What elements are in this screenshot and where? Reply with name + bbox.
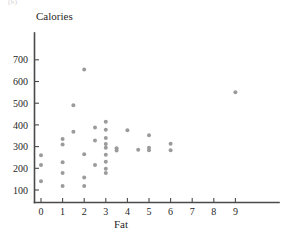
- x-tick-label: 8: [211, 206, 216, 217]
- axis-group: [35, 33, 280, 203]
- data-point: [61, 160, 65, 164]
- data-point: [71, 130, 75, 134]
- data-point: [82, 152, 86, 156]
- y-tick-label: 300: [13, 141, 28, 152]
- x-tick-label: 7: [190, 206, 195, 217]
- y-tick-label: 600: [13, 76, 28, 87]
- data-point: [71, 103, 75, 107]
- tick-group: [35, 60, 236, 203]
- data-point: [104, 120, 108, 124]
- data-point: [104, 167, 108, 171]
- data-point: [115, 149, 119, 153]
- data-point: [233, 90, 237, 94]
- data-point: [104, 128, 108, 132]
- y-tick-label: 700: [13, 54, 28, 65]
- data-point: [61, 142, 65, 146]
- x-tick-label: 6: [168, 206, 173, 217]
- x-tick-label: 5: [147, 206, 152, 217]
- scatter-plot-figure: (b) Calories 100200300400500600700 01234…: [0, 0, 290, 236]
- data-point: [93, 139, 97, 143]
- data-point: [93, 163, 97, 167]
- data-points-group: [39, 68, 237, 189]
- plot-canvas: 100200300400500600700 0123456789: [0, 0, 290, 236]
- x-tick-labels: 0123456789: [39, 206, 238, 217]
- y-tick-label: 200: [13, 163, 28, 174]
- data-point: [169, 142, 173, 146]
- y-tick-label: 100: [13, 185, 28, 196]
- data-point: [147, 148, 151, 152]
- data-point: [104, 136, 108, 140]
- data-point: [104, 142, 108, 146]
- x-tick-label: 3: [103, 206, 108, 217]
- data-point: [82, 68, 86, 72]
- x-tick-label: 4: [125, 206, 130, 217]
- x-tick-label: 1: [60, 206, 65, 217]
- data-point: [93, 126, 97, 130]
- data-point: [61, 171, 65, 175]
- y-tick-label: 500: [13, 98, 28, 109]
- data-point: [169, 148, 173, 152]
- x-axis-title: Fat: [114, 218, 128, 230]
- data-point: [147, 133, 151, 137]
- data-point: [39, 179, 43, 183]
- x-tick-label: 9: [233, 206, 238, 217]
- data-point: [136, 148, 140, 152]
- data-point: [82, 175, 86, 179]
- data-point: [39, 163, 43, 167]
- data-point: [61, 184, 65, 188]
- data-point: [104, 160, 108, 164]
- data-point: [104, 146, 108, 150]
- x-axis-title-wrap: Fat: [0, 218, 290, 230]
- data-point: [82, 184, 86, 188]
- x-tick-label: 2: [82, 206, 87, 217]
- data-point: [104, 171, 108, 175]
- y-tick-labels: 100200300400500600700: [13, 54, 28, 195]
- data-point: [61, 137, 65, 141]
- x-tick-label: 0: [39, 206, 44, 217]
- data-point: [104, 153, 108, 157]
- y-tick-label: 400: [13, 120, 28, 131]
- data-point: [39, 153, 43, 157]
- data-point: [125, 128, 129, 132]
